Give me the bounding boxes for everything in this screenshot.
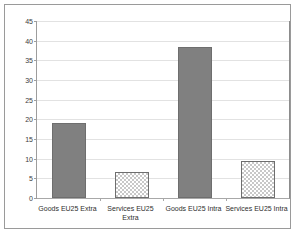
y-axis-tick-mark bbox=[34, 159, 37, 160]
y-axis-tick-mark bbox=[34, 80, 37, 81]
y-axis-tick-mark bbox=[34, 139, 37, 140]
bar bbox=[178, 47, 212, 198]
y-axis-tick-label: 30 bbox=[25, 77, 33, 84]
x-axis-category-label: Goods EU25 Extra bbox=[36, 204, 99, 213]
y-axis-tick-label: 35 bbox=[25, 57, 33, 64]
y-axis-tick-label: 45 bbox=[25, 18, 33, 25]
bar bbox=[52, 123, 86, 198]
x-axis-labels: Goods EU25 ExtraServices EU25 ExtraGoods… bbox=[36, 204, 290, 232]
y-axis-tick-label: 5 bbox=[29, 175, 33, 182]
plot-area: 051015202530354045 bbox=[36, 21, 290, 199]
chart-frame: 051015202530354045 Goods EU25 ExtraServi… bbox=[4, 4, 291, 229]
x-axis-category-label: Services EU25 Intra bbox=[225, 204, 288, 213]
y-axis-tick-label: 10 bbox=[25, 155, 33, 162]
y-axis-tick-mark bbox=[34, 41, 37, 42]
y-axis-tick-mark bbox=[34, 198, 37, 199]
y-axis-tick-mark bbox=[34, 60, 37, 61]
y-axis-tick-mark bbox=[34, 178, 37, 179]
y-axis-tick-label: 15 bbox=[25, 136, 33, 143]
y-axis-tick-mark bbox=[34, 100, 37, 101]
x-axis-category-label: Services EU25 Extra bbox=[99, 204, 162, 222]
x-axis-tick-mark bbox=[163, 198, 164, 201]
y-axis-tick-mark bbox=[34, 119, 37, 120]
y-axis-tick-label: 20 bbox=[25, 116, 33, 123]
x-axis-tick-mark bbox=[226, 198, 227, 201]
x-axis-category-label: Goods EU25 Intra bbox=[162, 204, 225, 213]
bar-series bbox=[37, 21, 289, 198]
chart-root: 051015202530354045 Goods EU25 ExtraServi… bbox=[0, 0, 298, 237]
x-axis-tick-mark bbox=[100, 198, 101, 201]
y-axis-tick-mark bbox=[34, 21, 37, 22]
bar bbox=[241, 161, 275, 198]
bar bbox=[115, 172, 149, 198]
y-axis-tick-label: 25 bbox=[25, 96, 33, 103]
y-axis-tick-label: 0 bbox=[29, 195, 33, 202]
y-axis-tick-label: 40 bbox=[25, 37, 33, 44]
